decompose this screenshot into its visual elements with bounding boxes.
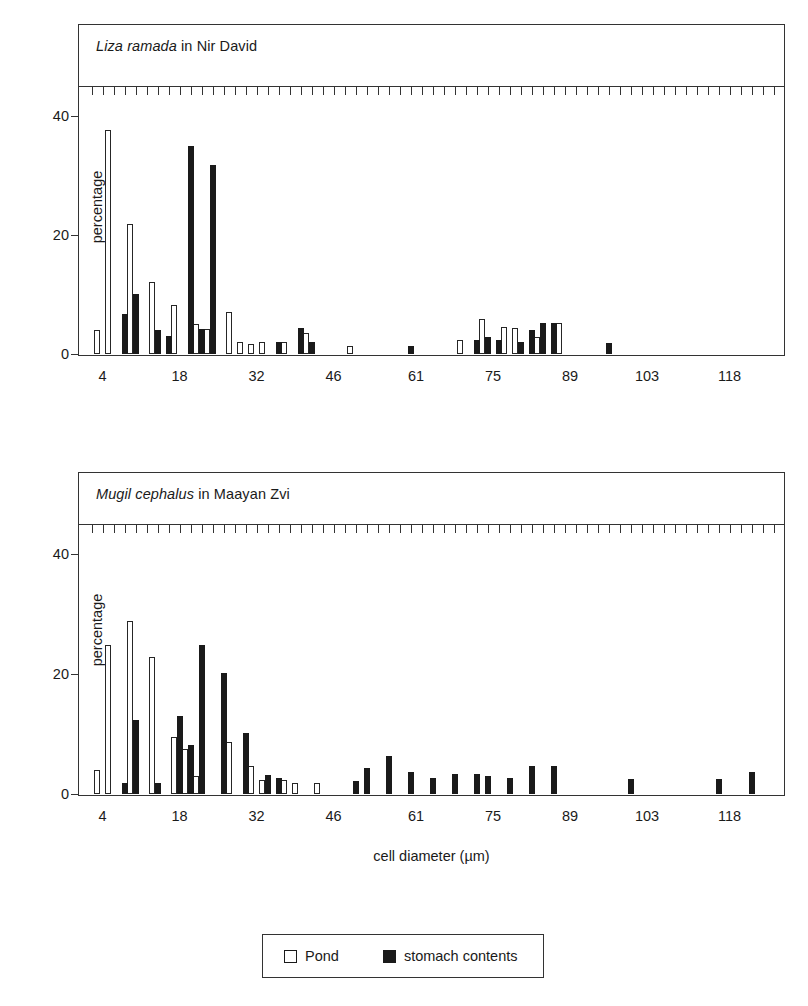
x-axis-tick xyxy=(730,86,731,95)
x-axis-tick xyxy=(697,524,698,533)
legend-label-pond: Pond xyxy=(305,948,339,964)
y-axis-tick xyxy=(71,554,78,555)
bar-stomach xyxy=(364,768,370,794)
x-axis-tick xyxy=(686,86,687,95)
x-axis-tick xyxy=(279,86,280,95)
x-axis-tick xyxy=(268,86,269,95)
x-axis-tick xyxy=(378,86,379,95)
bar-stomach xyxy=(298,328,304,354)
x-axis-tick xyxy=(565,524,566,533)
legend-entry-stomach: stomach contents xyxy=(383,948,518,964)
bar-stomach xyxy=(540,323,546,354)
x-axis-tick xyxy=(389,524,390,533)
x-axis-tick-label: 61 xyxy=(408,808,424,824)
legend: Pond stomach contents xyxy=(262,934,544,978)
panel-title-species: Mugil cephalus xyxy=(96,486,194,502)
x-axis-tick xyxy=(609,524,610,533)
y-axis-tick-label: 40 xyxy=(53,546,69,562)
x-axis-tick xyxy=(136,524,137,533)
x-axis-tick xyxy=(466,524,467,533)
bar-stomach xyxy=(408,772,414,794)
panel-title: Mugil cephalus in Maayan Zvi xyxy=(96,486,290,502)
x-axis-tick xyxy=(235,524,236,533)
x-axis-tick xyxy=(543,86,544,95)
x-axis-tick-label: 46 xyxy=(325,808,341,824)
bar-stomach xyxy=(166,336,172,354)
bar-pond xyxy=(314,783,320,794)
x-axis-ticks xyxy=(78,524,785,533)
x-axis-tick xyxy=(334,524,335,533)
chart-panel-mugil-cephalus: Mugil cephalus in Maayan Zvi percentage … xyxy=(78,472,785,796)
x-axis-tick xyxy=(708,86,709,95)
x-axis-tick xyxy=(653,524,654,533)
x-axis-tick xyxy=(642,524,643,533)
x-axis-tick-label: 46 xyxy=(325,368,341,384)
bar-stomach xyxy=(155,783,161,794)
bar-stomach xyxy=(386,756,392,794)
bar-pond xyxy=(94,770,100,794)
x-axis-tick xyxy=(620,524,621,533)
x-axis-tick xyxy=(609,86,610,95)
x-axis-tick xyxy=(675,524,676,533)
bar-pond xyxy=(105,645,111,794)
x-axis-tick xyxy=(499,524,500,533)
bar-stomach xyxy=(430,778,436,794)
x-axis-tick xyxy=(598,524,599,533)
bar-stomach xyxy=(628,779,634,794)
x-axis-tick xyxy=(312,524,313,533)
x-axis-tick xyxy=(752,86,753,95)
x-axis-tick xyxy=(675,86,676,95)
x-axis-tick xyxy=(543,524,544,533)
x-axis-tick xyxy=(730,524,731,533)
bar-stomach xyxy=(474,774,480,794)
x-axis-tick xyxy=(257,524,258,533)
x-axis-tick xyxy=(147,86,148,95)
bar-pond xyxy=(457,340,463,354)
x-axis-tick-label: 18 xyxy=(171,808,187,824)
x-axis-tick-label: 89 xyxy=(562,808,578,824)
bar-stomach xyxy=(210,165,216,354)
x-axis-tick xyxy=(301,86,302,95)
x-axis-tick xyxy=(576,86,577,95)
x-axis-tick xyxy=(246,86,247,95)
x-axis-tick xyxy=(477,86,478,95)
x-axis-tick-labels: 4183246617589103118 xyxy=(78,808,785,830)
x-axis-tick xyxy=(92,86,93,95)
x-axis-tick xyxy=(719,524,720,533)
x-axis-tick xyxy=(268,524,269,533)
x-axis-tick-label: 89 xyxy=(562,368,578,384)
bar-stomach xyxy=(452,774,458,794)
x-axis-tick xyxy=(356,86,357,95)
x-axis-tick xyxy=(180,524,181,533)
x-axis-tick xyxy=(235,86,236,95)
bar-stomach xyxy=(155,330,161,354)
x-axis-tick-label: 118 xyxy=(718,368,741,384)
y-axis-tick xyxy=(71,674,78,675)
bar-pond xyxy=(226,312,232,354)
x-axis-tick-label: 75 xyxy=(485,808,501,824)
x-axis-tick xyxy=(323,524,324,533)
x-axis-tick xyxy=(576,524,577,533)
legend-swatch-stomach-icon xyxy=(383,950,396,963)
y-axis-tick-label: 20 xyxy=(53,227,69,243)
x-axis-tick xyxy=(477,524,478,533)
legend-entry-pond: Pond xyxy=(284,948,339,964)
bar-stomach xyxy=(243,733,249,794)
y-axis-tick xyxy=(71,794,78,795)
bar-stomach xyxy=(529,766,535,794)
x-axis-tick xyxy=(136,86,137,95)
x-axis-tick-label: 61 xyxy=(408,368,424,384)
x-axis-tick xyxy=(224,524,225,533)
x-axis-tick xyxy=(532,86,533,95)
y-axis-tick xyxy=(71,116,78,117)
x-axis-tick-label: 32 xyxy=(248,808,264,824)
x-axis-tick-label: 103 xyxy=(635,368,659,384)
bars-container xyxy=(78,86,785,354)
x-axis-tick xyxy=(246,524,247,533)
bar-stomach xyxy=(551,323,557,354)
x-axis-tick xyxy=(411,524,412,533)
x-axis-tick xyxy=(741,524,742,533)
bar-pond xyxy=(347,346,353,354)
x-axis-tick xyxy=(103,86,104,95)
x-axis-tick xyxy=(554,524,555,533)
